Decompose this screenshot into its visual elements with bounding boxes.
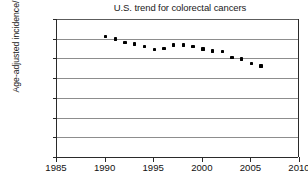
y-tick-mark (53, 98, 57, 99)
data-point (191, 45, 194, 48)
data-point (182, 43, 185, 46)
data-point (162, 47, 165, 50)
y-gridline (57, 78, 298, 79)
y-tick-mark (53, 118, 57, 119)
y-tick-mark (53, 19, 57, 20)
y-tick-mark (53, 137, 57, 138)
data-point (250, 62, 253, 65)
x-tick-label: 1995 (130, 163, 176, 173)
y-gridline (57, 98, 298, 99)
plot-area: 010203040506070 (56, 19, 299, 157)
y-tick-mark (53, 58, 57, 59)
x-tick-label: 2000 (179, 163, 225, 173)
data-point (143, 45, 146, 48)
x-tick-label: 2005 (227, 163, 273, 173)
data-point (153, 48, 156, 51)
y-tick-mark (53, 39, 57, 40)
x-tick-label: 2010 (276, 163, 308, 173)
chart-container: U.S. trend for colorectal cancers Age-ad… (0, 0, 308, 183)
data-point (201, 47, 204, 50)
data-point (123, 41, 126, 44)
y-gridline (57, 19, 298, 20)
y-tick-mark (53, 78, 57, 79)
data-point (259, 64, 262, 67)
data-point (211, 49, 214, 52)
data-point (172, 43, 175, 46)
data-point (104, 35, 107, 38)
data-point (133, 42, 136, 45)
y-gridline (57, 118, 298, 119)
data-point (240, 57, 243, 60)
y-gridline (57, 58, 298, 59)
y-gridline (57, 39, 298, 40)
data-point (221, 50, 224, 53)
x-axis: 198519901995200020052010 (56, 157, 299, 183)
x-tick-label: 1990 (82, 163, 128, 173)
data-point (114, 37, 117, 40)
x-tick-label: 1985 (33, 163, 79, 173)
chart-title: U.S. trend for colorectal cancers (55, 2, 305, 13)
y-axis-label: Age-adjusted incidence/100,000 (11, 0, 21, 101)
y-gridline (57, 137, 298, 138)
data-point (230, 56, 233, 59)
